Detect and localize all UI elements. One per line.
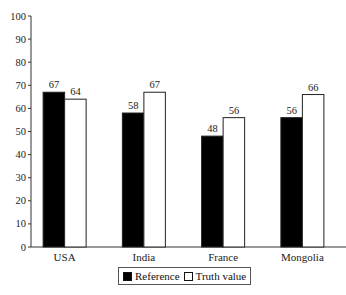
chart-legend: Reference Truth value — [118, 267, 251, 285]
bar-truth-value — [65, 99, 87, 247]
y-tick-label: 40 — [16, 149, 27, 160]
y-tick-label: 60 — [16, 103, 27, 114]
x-category-label: India — [133, 251, 156, 263]
bar-reference — [202, 136, 224, 247]
bar-truth-value — [144, 92, 166, 247]
y-tick-label: 20 — [16, 195, 27, 206]
legend-swatch-reference — [123, 272, 132, 281]
bar-value-label: 58 — [128, 100, 139, 111]
bar-reference — [122, 113, 144, 247]
legend-swatch-truth-value — [184, 272, 193, 281]
bar-value-label: 56 — [229, 105, 240, 116]
bar-value-label: 48 — [207, 123, 218, 134]
bar-value-label: 56 — [286, 105, 297, 116]
legend-label-reference: Reference — [135, 270, 180, 282]
y-tick-label: 30 — [16, 172, 27, 183]
y-tick-label: 100 — [10, 11, 26, 22]
bar-reference — [281, 118, 303, 247]
y-tick-label: 0 — [21, 242, 26, 253]
x-category-label: France — [208, 251, 238, 263]
y-tick-label: 50 — [16, 126, 27, 137]
y-tick-label: 90 — [16, 34, 27, 45]
x-category-label: USA — [54, 251, 76, 263]
legend-label-truth-value: Truth value — [196, 270, 247, 282]
y-tick-label: 80 — [16, 57, 27, 68]
legend-item-truth-value: Truth value — [184, 270, 247, 282]
bar-truth-value — [302, 95, 324, 247]
legend-item-reference: Reference — [123, 270, 180, 282]
bar-reference — [43, 92, 65, 247]
bar-truth-value — [223, 118, 245, 247]
y-tick-label: 70 — [16, 80, 27, 91]
bar-value-label: 66 — [308, 82, 319, 93]
bar-chart: 01020304050607080901006764USA5867India48… — [0, 0, 346, 295]
y-tick-label: 10 — [16, 218, 27, 229]
bar-value-label: 64 — [70, 86, 81, 97]
x-category-label: Mongolia — [281, 251, 324, 263]
bar-value-label: 67 — [49, 79, 60, 90]
bar-value-label: 67 — [149, 79, 160, 90]
